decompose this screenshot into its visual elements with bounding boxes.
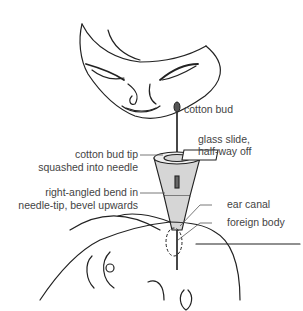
speculum-funnel-drawing bbox=[154, 150, 218, 230]
foreign-body-outline bbox=[166, 228, 182, 256]
label-cotton-tip-line1: cotton bud tip bbox=[75, 148, 138, 161]
label-glass-slide-line2: half-way off bbox=[198, 145, 252, 158]
label-bend-line1: right-angled bend in bbox=[45, 186, 138, 199]
label-cotton-tip-line2: squashed into needle bbox=[38, 161, 138, 174]
label-ear-canal: ear canal bbox=[227, 198, 270, 211]
label-cotton-bud: cotton bud bbox=[184, 103, 233, 116]
label-bend-line2: needle-tip, bevel upwards bbox=[18, 199, 138, 212]
diagram-illustration bbox=[0, 0, 303, 311]
label-foreign-body: foreign body bbox=[227, 216, 285, 229]
